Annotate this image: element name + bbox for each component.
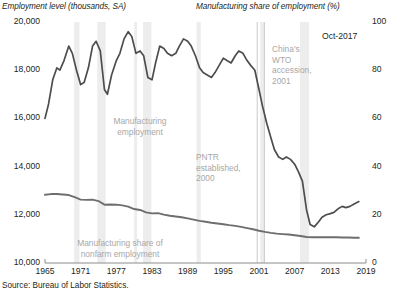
source-note: Source: Bureau of Labor Statistics. [2, 281, 129, 290]
annotation-manufacturing-share: Manufacturing share of nonfarm employmen… [55, 238, 185, 259]
annotation-line: WTO [272, 55, 312, 66]
annotation-pntr: PNTR established, 2000 [196, 152, 241, 184]
annotation-line: Manufacturing [97, 116, 183, 127]
right-tick-label: 40 [372, 161, 404, 171]
x-tick-label: 2007 [275, 266, 315, 276]
chart-container: Employment level (thousands, SA) Manufac… [0, 0, 404, 295]
x-tick-label: 1989 [168, 266, 208, 276]
annotation-line: 2000 [196, 173, 241, 184]
x-tick-label: 2013 [310, 266, 350, 276]
left-tick-label: 12,000 [0, 209, 40, 219]
left-tick-label: 16,000 [0, 112, 40, 122]
x-tick-label: 2001 [239, 266, 279, 276]
annotation-wto: China's WTO accession, 2001 [272, 44, 312, 86]
left-tick-label: 20,000 [0, 16, 40, 26]
right-tick-label: 60 [372, 112, 404, 122]
annotation-line: China's [272, 44, 312, 55]
left-tick-label: 14,000 [0, 161, 40, 171]
annotation-line: nonfarm employment [55, 249, 185, 260]
x-tick-label: 1971 [61, 266, 101, 276]
annotation-line: employment [97, 127, 183, 138]
annotation-line: Manufacturing share of [55, 238, 185, 249]
right-tick-label: 100 [372, 16, 404, 26]
data-series [45, 32, 359, 238]
right-tick-label: 20 [372, 209, 404, 219]
x-tick-label: 1983 [132, 266, 172, 276]
annotation-line: 2001 [272, 76, 312, 87]
left-tick-label: 18,000 [0, 64, 40, 74]
annotation-line: established, [196, 163, 241, 174]
right-tick-label: 80 [372, 64, 404, 74]
x-tick-label: 1995 [203, 266, 243, 276]
x-tick-label: 1965 [25, 266, 65, 276]
x-tick-label: 2019 [346, 266, 386, 276]
annotation-manufacturing-employment: Manufacturing employment [97, 116, 183, 137]
annotation-line: PNTR [196, 152, 241, 163]
annotation-line: accession, [272, 65, 312, 76]
axis-lines [45, 259, 366, 263]
x-tick-label: 1977 [96, 266, 136, 276]
